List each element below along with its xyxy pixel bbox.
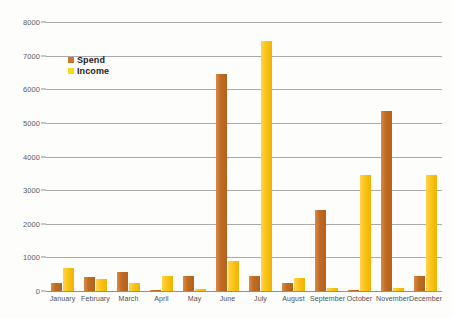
bar-spend	[150, 290, 161, 291]
x-axis-tick-label: June	[211, 295, 244, 302]
legend-label-income: Income	[77, 66, 109, 76]
bar-income	[195, 289, 206, 291]
y-axis-tick-mark	[41, 55, 46, 56]
x-axis-tick-label: April	[145, 295, 178, 302]
gridline	[46, 291, 442, 292]
bar-income	[294, 278, 305, 291]
bar-income	[162, 276, 173, 291]
bar-spend	[315, 210, 326, 291]
y-axis-tick-mark	[41, 156, 46, 157]
y-axis-tick-label: 1000	[0, 253, 40, 262]
y-axis-tick-mark	[41, 257, 46, 258]
legend-swatch-spend-icon	[68, 57, 74, 63]
bar-spend	[381, 111, 392, 291]
bar-group	[381, 22, 404, 291]
y-axis-tick-mark	[41, 22, 46, 23]
y-axis-tick-label: 2000	[0, 219, 40, 228]
bar-spend	[348, 290, 359, 291]
legend-swatch-income-icon	[68, 68, 74, 74]
y-axis-tick-label: 0	[0, 287, 40, 296]
x-axis-tick-label: March	[112, 295, 145, 302]
bar-income	[327, 288, 338, 291]
chart-legend: Spend Income	[68, 55, 109, 77]
x-axis-tick-label: July	[244, 295, 277, 302]
x-axis-tick-label: May	[178, 295, 211, 302]
bar-spend	[84, 277, 95, 291]
x-axis-tick-label: February	[79, 295, 112, 302]
x-axis-tick-label: December	[409, 295, 442, 302]
y-axis-tick-label: 5000	[0, 118, 40, 127]
y-axis-tick-label: 7000	[0, 51, 40, 60]
bar-income	[96, 279, 107, 291]
legend-item-spend: Spend	[68, 55, 109, 65]
x-axis-tick-label: November	[376, 295, 409, 302]
bar-spend	[414, 276, 425, 291]
bar-group	[282, 22, 305, 291]
y-axis-tick-label: 8000	[0, 18, 40, 27]
bar-group	[117, 22, 140, 291]
x-axis-tick-label: October	[343, 295, 376, 302]
bar-group	[216, 22, 239, 291]
bar-income	[426, 175, 437, 291]
bar-income	[228, 261, 239, 291]
legend-item-income: Income	[68, 66, 109, 76]
bar-spend	[183, 276, 194, 291]
bar-group	[249, 22, 272, 291]
x-axis-tick-label: January	[46, 295, 79, 302]
bar-spend	[51, 283, 62, 291]
bar-group	[348, 22, 371, 291]
bar-income	[63, 268, 74, 291]
bar-income	[393, 288, 404, 291]
bar-income	[261, 41, 272, 292]
y-axis-tick-label: 3000	[0, 186, 40, 195]
x-axis-tick-label: September	[310, 295, 343, 302]
y-axis-tick-label: 6000	[0, 85, 40, 94]
y-axis-tick-label: 4000	[0, 152, 40, 161]
bar-group	[150, 22, 173, 291]
y-axis-tick-mark	[41, 291, 46, 292]
y-axis-tick-mark	[41, 122, 46, 123]
bar-group	[414, 22, 437, 291]
bar-spend	[249, 276, 260, 291]
bar-spend	[282, 283, 293, 291]
legend-label-spend: Spend	[77, 55, 105, 65]
bar-income	[129, 283, 140, 291]
y-axis-tick-mark	[41, 89, 46, 90]
y-axis-tick-mark	[41, 190, 46, 191]
bar-income	[360, 175, 371, 291]
bar-spend	[216, 74, 227, 291]
bar-group	[315, 22, 338, 291]
bar-chart: Spend Income 800070006000500040003000200…	[0, 0, 452, 318]
y-axis-tick-mark	[41, 223, 46, 224]
x-axis-tick-label: August	[277, 295, 310, 302]
bar-group	[183, 22, 206, 291]
bar-spend	[117, 272, 128, 291]
